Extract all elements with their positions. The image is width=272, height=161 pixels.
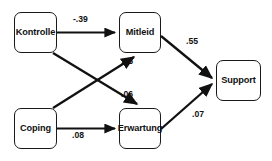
node-mitleid-label: Mitleid <box>126 28 154 37</box>
edge-erwartung-support <box>161 84 212 129</box>
node-erwartung-label: Erwartung <box>118 124 163 133</box>
node-coping[interactable]: Coping <box>14 108 57 149</box>
edge-label-kontrolle-mitleid: -.39 <box>73 15 88 24</box>
edge-label-coping-erwartung: .08 <box>72 131 84 140</box>
path-diagram: Kontrolle Mitleid Coping Erwartung Suppo… <box>0 0 272 161</box>
node-mitleid[interactable]: Mitleid <box>119 12 161 53</box>
edge-label-coping-mitleid: .25 <box>121 57 133 66</box>
edge-label-kontrolle-erwartung: .06 <box>121 90 133 99</box>
edge-label-mitleid-support: .55 <box>186 37 198 46</box>
node-support-label: Support <box>221 76 256 85</box>
node-kontrolle[interactable]: Kontrolle <box>14 12 57 53</box>
edge-label-erwartung-support: .07 <box>192 110 204 119</box>
node-erwartung[interactable]: Erwartung <box>119 108 161 149</box>
node-kontrolle-label: Kontrolle <box>16 28 55 37</box>
node-support[interactable]: Support <box>216 60 261 101</box>
node-coping-label: Coping <box>20 124 51 133</box>
